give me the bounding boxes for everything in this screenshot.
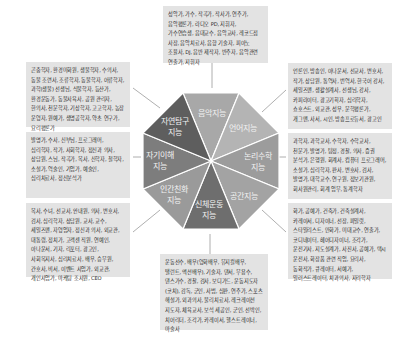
segment-label-bodily: 신체운동 지능 (195, 199, 223, 221)
connector-linguistic (262, 90, 286, 112)
segment-label-music: 음악지능 (198, 108, 226, 119)
segment-label-spatial: 공간지능 (230, 191, 258, 202)
careers-box-linguistic: 언론인, 방송인, 아나운서, 선교사, 변호사, 작가, 상담원, 통역사, … (288, 63, 392, 129)
careers-box-naturalist: 곤충학자, 환경미화원, 생물학자, 수의사, 동물 조련사, 조류학자, 동물… (26, 62, 130, 127)
segment-label-naturalist: 자연탐구 지능 (161, 116, 189, 138)
careers-box-bodily: 운동선수, 배우(영화배우, 뮤지컬배우, 탤런트, 액션배우), 기술자, 댄… (160, 254, 268, 330)
careers-box-logical: 과학자, 과학교사, 수학자, 수학교사, 천문가, 발명가, 탐정, 경찰, … (288, 133, 392, 199)
careers-box-music: 성악가, 가수, 작곡가, 작사가, 연주가, 음악평론가, 라디오 PD, 지… (163, 6, 268, 63)
careers-box-interpersonal: 목사, 수녀, 선교사, 안내원, 의사, 변호사, 검사, 심리학자, 상담원… (26, 203, 130, 277)
careers-box-spatial: 화가, 공예가, 건축가, 건축설계사, 카레이서, 디자이너, 선장, 파일럿… (288, 203, 392, 279)
segment-label-interpersonal: 인간친화 지능 (160, 184, 188, 206)
segment-label-logical: 논리수학 지능 (244, 151, 272, 173)
connector-spatial (262, 210, 286, 232)
careers-box-intrapersonal: 발명가, 수사, 신부님, 프로그래머, 심리학자, 작가, 사회학자, 정신과… (26, 132, 130, 198)
segment-label-intrapersonal: 자기이해 지능 (146, 150, 174, 172)
connector-interpersonal (133, 210, 160, 232)
connector-naturalist (133, 88, 160, 108)
segment-label-linguistic: 언어지능 (229, 123, 257, 134)
